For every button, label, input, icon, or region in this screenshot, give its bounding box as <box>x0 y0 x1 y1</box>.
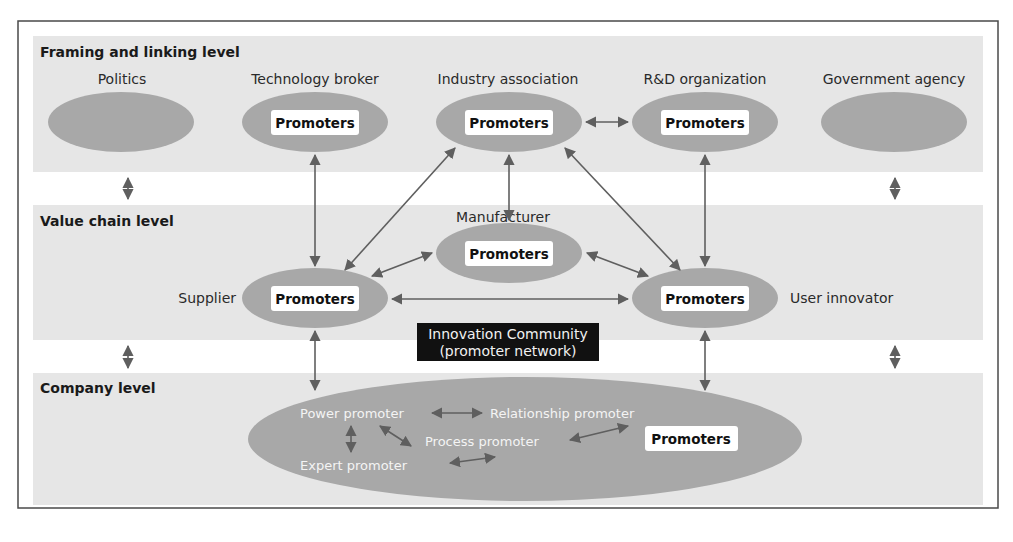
rd-organization-label: R&D organization <box>644 71 767 87</box>
industry-association-label: Industry association <box>438 71 579 87</box>
svg-text:Promoters: Promoters <box>665 115 744 131</box>
framing-level-title: Framing and linking level <box>40 44 240 60</box>
manufacturer-label: Manufacturer <box>456 209 550 225</box>
svg-text:Promoters: Promoters <box>275 291 354 307</box>
rd-organization-promoters-box: Promoters <box>661 110 749 135</box>
industry-association-promoters-box: Promoters <box>465 110 553 135</box>
technology-broker-promoters-box: Promoters <box>271 110 359 135</box>
user-innovator-promoters-box: Promoters <box>661 286 749 311</box>
process-promoter-label: Process promoter <box>425 434 539 449</box>
company-level-title: Company level <box>40 380 156 396</box>
value-chain-level-title: Value chain level <box>40 213 174 229</box>
expert-promoter-label: Expert promoter <box>300 458 408 473</box>
svg-text:Promoters: Promoters <box>275 115 354 131</box>
politics-node <box>48 92 194 152</box>
company-promoters-box: Promoters <box>645 426 738 451</box>
politics-label: Politics <box>98 71 147 87</box>
promoter-network-diagram: Framing and linking level Value chain le… <box>0 0 1013 542</box>
supplier-promoters-box: Promoters <box>271 286 359 311</box>
innovation-community-box: Innovation Community (promoter network) <box>417 323 599 361</box>
manufacturer-promoters-box: Promoters <box>465 241 553 266</box>
svg-text:Innovation Community: Innovation Community <box>428 326 588 342</box>
user-innovator-label: User innovator <box>790 290 893 306</box>
government-agency-label: Government agency <box>823 71 966 87</box>
power-promoter-label: Power promoter <box>300 406 404 421</box>
svg-text:(promoter network): (promoter network) <box>439 343 576 359</box>
svg-text:Promoters: Promoters <box>665 291 744 307</box>
government-agency-node <box>821 92 967 152</box>
relationship-promoter-label: Relationship promoter <box>490 406 635 421</box>
svg-text:Promoters: Promoters <box>469 246 548 262</box>
svg-text:Promoters: Promoters <box>651 431 730 447</box>
supplier-label: Supplier <box>178 290 236 306</box>
svg-text:Promoters: Promoters <box>469 115 548 131</box>
technology-broker-label: Technology broker <box>250 71 379 87</box>
